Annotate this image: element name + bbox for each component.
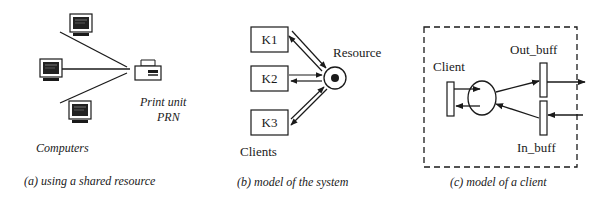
caption-a: (a) using a shared resource bbox=[24, 174, 156, 188]
arc-k3-to-resource bbox=[291, 87, 324, 119]
client-label-k1: K1 bbox=[262, 32, 278, 47]
client-transition bbox=[447, 82, 454, 116]
computer-monitor-icon bbox=[70, 14, 92, 36]
arc-k1-to-resource bbox=[292, 31, 326, 68]
panel-c-client-model: Client Out_buff In_buff (c) model of a c… bbox=[424, 27, 585, 189]
connector-line bbox=[60, 73, 127, 103]
printer-icon bbox=[135, 60, 161, 80]
resource-place bbox=[324, 67, 346, 89]
arc-in-buff-to-place bbox=[496, 104, 539, 118]
arc-place-to-out-buff bbox=[496, 81, 539, 92]
caption-b: (b) model of the system bbox=[237, 175, 349, 189]
arc-resource-to-k3 bbox=[291, 89, 327, 125]
printer-label-line2: PRN bbox=[156, 110, 181, 124]
arc-resource-to-k1 bbox=[289, 36, 322, 71]
client-label: Client bbox=[433, 59, 465, 74]
computers-label: Computers bbox=[36, 141, 89, 155]
computer-monitor-icon bbox=[40, 59, 62, 81]
figure-diagram: Print unit PRN Computers (a) using a sha… bbox=[0, 0, 612, 203]
client-place bbox=[468, 81, 496, 115]
in-buff-transition bbox=[540, 101, 547, 135]
panel-a-shared-resource: Print unit PRN Computers (a) using a sha… bbox=[24, 14, 187, 188]
connector-line bbox=[60, 32, 127, 67]
panel-b-system-model: K1 K2 K3 Resource Clients (b) model of t… bbox=[237, 27, 382, 189]
printer-label-line1: Print unit bbox=[139, 95, 187, 109]
computer-monitor-icon bbox=[69, 101, 91, 123]
out-buff-label: Out_buff bbox=[510, 42, 558, 57]
client-label-k2: K2 bbox=[262, 71, 278, 86]
in-buff-label: In_buff bbox=[517, 140, 556, 155]
caption-c: (c) model of a client bbox=[450, 175, 547, 189]
clients-label: Clients bbox=[240, 144, 277, 159]
client-label-k3: K3 bbox=[262, 115, 278, 130]
resource-label: Resource bbox=[333, 45, 382, 60]
out-buff-transition bbox=[540, 63, 547, 97]
